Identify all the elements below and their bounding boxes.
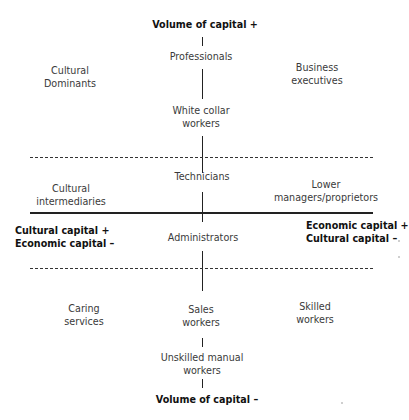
scan-artifact [398, 256, 400, 258]
line-2: workers [296, 313, 334, 326]
axis-segment [202, 338, 203, 347]
axis-segment [202, 251, 203, 291]
line-1: Lower [274, 178, 378, 191]
node-unskilled-manual-workers: Unskilled manual workers [161, 351, 244, 377]
node-caring-services: Caring services [64, 302, 103, 328]
node-skilled-workers: Skilled workers [296, 300, 334, 326]
line-2: intermediaries [36, 195, 106, 208]
line-1: Cultural [36, 182, 106, 195]
line-2: Cultural capital – [306, 232, 409, 245]
node-technicians: Technicians [174, 170, 229, 183]
axis-label-right: Economic capital + Cultural capital – [306, 219, 409, 245]
line-1: Skilled [296, 300, 334, 313]
axis-label-top: Volume of capital + [152, 18, 258, 31]
axis-segment [202, 192, 203, 222]
line-1: Cultural [44, 64, 96, 77]
line-1: White collar [172, 104, 229, 117]
node-white-collar-workers: White collar workers [172, 104, 229, 130]
scan-artifact [341, 402, 343, 404]
line-1: Economic capital + [306, 219, 409, 232]
line-2: workers [182, 316, 220, 329]
line-2: services [64, 315, 103, 328]
line-1: Caring [64, 302, 103, 315]
axis-label-bottom: Volume of capital – [156, 393, 258, 406]
axis-segment [202, 69, 203, 99]
lower-dashed-divider [30, 268, 373, 269]
line-2: workers [172, 117, 229, 130]
line-2: executives [291, 74, 342, 87]
line-1: Sales [182, 303, 220, 316]
line-1: Unskilled manual [161, 351, 244, 364]
line-1: Business [291, 61, 342, 74]
line-2: managers/proprietors [274, 191, 378, 204]
axis-label-left: Cultural capital + Economic capital – [15, 224, 114, 250]
line-1: Cultural capital + [15, 224, 114, 237]
node-business-executives: Business executives [291, 61, 342, 87]
node-professionals: Professionals [170, 50, 233, 63]
horizontal-axis [30, 212, 373, 214]
node-cultural-dominants: Cultural Dominants [44, 64, 96, 90]
line-2: Dominants [44, 77, 96, 90]
node-administrators: Administrators [168, 231, 238, 244]
line-2: workers [161, 364, 244, 377]
node-lower-managers-proprietors: Lower managers/proprietors [274, 178, 378, 204]
node-cultural-intermediaries: Cultural intermediaries [36, 182, 106, 208]
upper-dashed-divider [30, 157, 373, 158]
axis-segment [202, 136, 203, 173]
axis-tick-top [202, 37, 203, 46]
scan-artifact [398, 240, 400, 242]
node-sales-workers: Sales workers [182, 303, 220, 329]
line-2: Economic capital – [15, 237, 114, 250]
axis-tick-bottom [202, 379, 203, 388]
